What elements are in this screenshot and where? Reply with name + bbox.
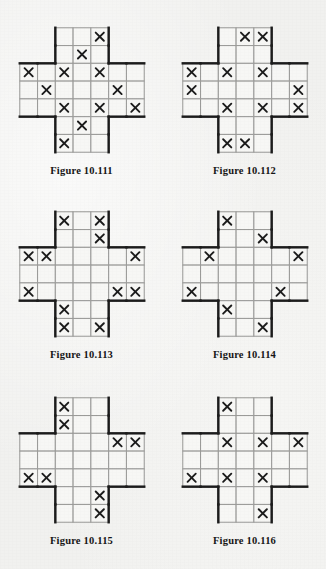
grid-cell (236, 433, 254, 451)
cross-svg-5 (179, 394, 311, 526)
grid-cell (218, 28, 236, 46)
grid-cell (55, 247, 73, 265)
cross-svg-0 (16, 24, 148, 156)
grid-cell (236, 451, 254, 469)
grid-cell (108, 63, 126, 81)
grid-cell (90, 283, 108, 301)
grid-cell (200, 265, 218, 283)
grid-cell (55, 28, 73, 46)
grid-cell (236, 81, 254, 99)
grid-cell (236, 416, 254, 434)
grid-cell (182, 247, 200, 265)
grid-cell (200, 433, 218, 451)
cross-diagram-2[interactable] (16, 208, 148, 340)
figure-caption-3: Figure 10.114 (213, 349, 276, 360)
grid-cell (73, 416, 91, 434)
grid-cell (218, 451, 236, 469)
cross-diagram-5[interactable] (179, 394, 311, 526)
grid-cell (271, 63, 289, 81)
grid-cell (55, 469, 73, 487)
grid-cell (236, 99, 254, 117)
grid-cell (271, 469, 289, 487)
grid-cell (90, 416, 108, 434)
cross-svg-3 (179, 208, 311, 340)
grid-cell (55, 81, 73, 99)
grid-cell (253, 134, 271, 152)
grid-cell (90, 301, 108, 319)
grid-cell (253, 398, 271, 416)
grid-cell (271, 247, 289, 265)
grid-cell (218, 504, 236, 522)
grid-cell (236, 487, 254, 505)
grid-cell (126, 469, 144, 487)
grid-cell (182, 99, 200, 117)
grid-cell (90, 46, 108, 64)
grid-cell (218, 487, 236, 505)
grid-cell (73, 265, 91, 283)
cross-svg-4 (16, 394, 148, 526)
grid-cell (73, 433, 91, 451)
cross-diagram-0[interactable] (16, 24, 148, 156)
grid-cell (73, 99, 91, 117)
grid-cell (236, 247, 254, 265)
grid-cell (73, 398, 91, 416)
grid-cell (108, 451, 126, 469)
grid-cell (90, 469, 108, 487)
grid-cell (200, 469, 218, 487)
grid-cell (253, 301, 271, 319)
grid-cell (73, 318, 91, 336)
grid-cell (55, 451, 73, 469)
grid-cell (218, 283, 236, 301)
grid-cell (200, 451, 218, 469)
grid-cell (289, 283, 307, 301)
grid-cell (236, 46, 254, 64)
grid-cell (182, 433, 200, 451)
grid-cell (218, 265, 236, 283)
cross-diagram-4[interactable] (16, 394, 148, 526)
grid-cell (126, 81, 144, 99)
grid-cell (37, 283, 55, 301)
grid-cell (218, 117, 236, 135)
grid-cell (73, 230, 91, 248)
grid-cell (73, 469, 91, 487)
grid-cell (90, 81, 108, 99)
figure-container-2: Figure 10.113 (0, 188, 163, 374)
grid-cell (19, 265, 37, 283)
grid-cell (218, 416, 236, 434)
figure-container-3: Figure 10.114 (163, 188, 326, 374)
grid-cell (55, 283, 73, 301)
cross-diagram-3[interactable] (179, 208, 311, 340)
grid-cell (236, 398, 254, 416)
grid-cell (218, 247, 236, 265)
grid-cell (253, 46, 271, 64)
grid-cell (253, 247, 271, 265)
figure-caption-1: Figure 10.112 (213, 165, 276, 176)
grid-cell (236, 230, 254, 248)
grid-cell (90, 398, 108, 416)
grid-cell (236, 504, 254, 522)
cross-svg-2 (16, 208, 148, 340)
grid-cell (253, 416, 271, 434)
grid-cell (236, 212, 254, 230)
grid-cell (271, 81, 289, 99)
cross-svg-1 (179, 24, 311, 156)
grid-cell (271, 99, 289, 117)
grid-cell (236, 301, 254, 319)
grid-cell (108, 469, 126, 487)
grid-cell (55, 433, 73, 451)
grid-cell (126, 451, 144, 469)
cross-diagram-1[interactable] (179, 24, 311, 156)
grid-cell (37, 433, 55, 451)
grid-cell (73, 63, 91, 81)
grid-cell (236, 318, 254, 336)
figure-caption-4: Figure 10.115 (50, 535, 113, 546)
page-root: Figure 10.111 Figure 10.112 Figure 10.11… (0, 0, 326, 569)
grid-cell (55, 265, 73, 283)
grid-cell (218, 318, 236, 336)
grid-cell (73, 247, 91, 265)
figure-caption-5: Figure 10.116 (213, 535, 276, 546)
grid-cell (218, 230, 236, 248)
grid-cell (289, 469, 307, 487)
grid-cell (200, 99, 218, 117)
grid-cell (253, 212, 271, 230)
